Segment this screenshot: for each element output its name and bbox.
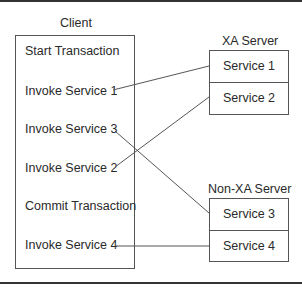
line-service-1 xyxy=(113,66,209,90)
connection-lines xyxy=(0,0,302,287)
line-service-3 xyxy=(115,131,209,213)
line-service-2 xyxy=(115,97,209,167)
